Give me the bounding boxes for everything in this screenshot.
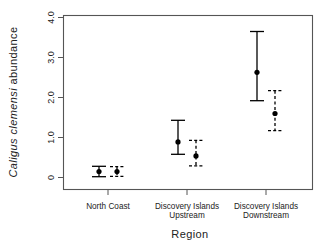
y-tick-label-1: 1.0 <box>46 131 56 144</box>
error-bar-point-1-0 <box>110 167 124 177</box>
y-tick-label-3: 3.0 <box>46 51 56 64</box>
category-label-di-upstream-line2: Upstream <box>169 211 205 220</box>
error-bar-point-0-0 <box>92 166 106 176</box>
data-point-marker <box>175 139 180 144</box>
error-bar-point-0-2 <box>250 32 264 101</box>
data-point-marker <box>254 70 259 75</box>
y-tick-label-4: 4.0 <box>46 11 56 24</box>
y-axis-title: Caligus clemensi abundance <box>7 26 19 177</box>
y-axis-ticks <box>58 18 64 178</box>
data-point-marker <box>114 169 119 174</box>
category-label-di-downstream-line2: Downstream <box>243 211 289 220</box>
y-axis-title-roman: abundance <box>7 26 19 84</box>
data-point-marker <box>96 169 101 174</box>
error-bar-point-0-1 <box>171 120 185 154</box>
data-point-marker <box>272 111 277 116</box>
category-label-di-downstream-line1: Discovery Islands <box>234 202 298 211</box>
chart-figure: 4.0 3.0 2.0 1.0 0 Caligus clemensi abund… <box>0 0 330 245</box>
y-axis-title-italic: Caligus clemensi <box>7 88 19 178</box>
x-axis-title: Region <box>171 228 208 240</box>
category-label-north-coast: North Coast <box>86 202 130 211</box>
x-axis-ticks <box>108 190 266 196</box>
x-axis-category-labels: North Coast Discovery Islands Upstream D… <box>86 202 298 220</box>
category-label-di-upstream-line1: Discovery Islands <box>155 202 219 211</box>
data-series-layer <box>92 32 282 177</box>
y-tick-label-0: 0 <box>46 175 56 180</box>
y-axis-tick-labels: 4.0 3.0 2.0 1.0 0 <box>46 11 56 180</box>
scatter-plot-with-error-bars: 4.0 3.0 2.0 1.0 0 Caligus clemensi abund… <box>0 0 330 245</box>
y-tick-label-2: 2.0 <box>46 91 56 104</box>
y-axis-title-text: Caligus clemensi abundance <box>7 26 19 177</box>
data-point-marker <box>193 153 198 158</box>
error-bar-point-1-1 <box>189 140 203 166</box>
error-bar-point-1-2 <box>268 91 282 131</box>
